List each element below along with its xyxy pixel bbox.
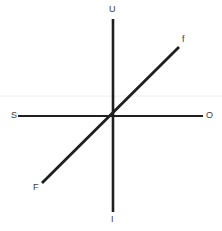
axis-label-down: I (111, 215, 114, 224)
axis-diagram: U I S O f F (0, 0, 222, 231)
axis-label-right: O (206, 111, 213, 120)
axis-canvas (0, 0, 222, 231)
axis-label-diagonal-down: F (33, 183, 39, 192)
axis-label-left: S (11, 111, 17, 120)
axis-label-diagonal-up: f (182, 35, 185, 44)
axis-label-up: U (109, 5, 116, 14)
